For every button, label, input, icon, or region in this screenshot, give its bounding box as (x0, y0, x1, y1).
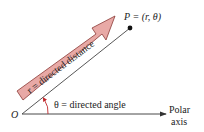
polar-axis-label-line2: axis (171, 116, 187, 127)
distance-label: r = directed distance (25, 37, 97, 95)
angle-label: θ = directed angle (54, 99, 126, 110)
polar-axis-label-line1: Polar (169, 104, 191, 115)
origin-label: O (11, 109, 18, 120)
point-label: P = (r, θ) (123, 11, 162, 23)
polar-coordinates-diagram: r = directed distance P = (r, θ) θ = dir… (0, 0, 204, 132)
angle-arc (44, 99, 48, 114)
point-p (128, 26, 133, 31)
